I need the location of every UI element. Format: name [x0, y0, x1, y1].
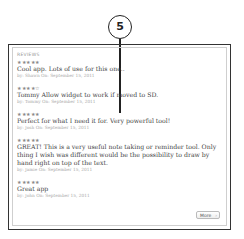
review-text: Tommy Allow widget to work if moved to S…	[17, 91, 222, 99]
chevron-right-icon: ›	[215, 212, 217, 220]
review-item: ★★★★★ GREAT! This is a very useful note …	[17, 137, 222, 173]
review-text: Great app	[17, 185, 222, 193]
review-item: ★★★★★ Cool app. Lots of use for this one…	[17, 59, 222, 79]
review-item: ★★★★★ Perfect for what I need it for. Ve…	[17, 111, 222, 131]
review-item: ★★★★☆ Tommy Allow widget to work if move…	[17, 85, 222, 105]
callout-number-badge: 5	[108, 15, 132, 39]
more-button-label: More	[200, 213, 211, 218]
review-meta: by: Shawn On: September 15, 2011	[17, 73, 222, 79]
review-meta: by: Josh On: September 15, 2011	[17, 125, 222, 131]
review-meta: by: Tommy On: September 15, 2011	[17, 99, 222, 105]
review-item: ★★★★★ Great app by: John On: September 1…	[17, 179, 222, 199]
reviews-panel: REVIEWS ★★★★★ Cool app. Lots of use for …	[12, 47, 227, 226]
review-meta: by: John On: September 15, 2011	[17, 193, 222, 199]
more-button[interactable]: More ›	[196, 211, 220, 219]
review-text: Perfect for what I need it for. Very pow…	[17, 117, 222, 125]
review-text: Cool app. Lots of use for this one..	[17, 65, 222, 73]
review-text: GREAT! This is a very useful note taking…	[17, 143, 222, 167]
reviews-frame: REVIEWS ★★★★★ Cool app. Lots of use for …	[8, 44, 231, 230]
reviews-heading: REVIEWS	[17, 52, 222, 57]
review-meta: by: Jamie On: September 15, 2011	[17, 167, 222, 173]
